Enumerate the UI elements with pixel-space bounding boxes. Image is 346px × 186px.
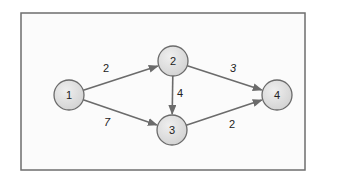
edge-weight-label: 4 [177, 87, 183, 99]
edge-weight-label: 2 [103, 62, 109, 74]
edge-2-to-3 [172, 76, 173, 114]
node-1: 1 [54, 80, 84, 110]
node-label: 2 [170, 55, 176, 67]
node-label: 3 [169, 124, 175, 136]
edge-weight-label: 3 [230, 62, 237, 74]
node-label: 4 [274, 89, 280, 101]
node-2: 2 [158, 46, 188, 76]
node-4: 4 [262, 80, 292, 110]
node-3: 3 [157, 115, 187, 145]
graph-diagram: 1234 27432 [0, 0, 346, 186]
graph-svg: 1234 27432 [0, 0, 346, 186]
node-label: 1 [66, 89, 72, 101]
edge-weight-label: 7 [104, 116, 111, 128]
edge-weight-label: 2 [229, 118, 235, 130]
